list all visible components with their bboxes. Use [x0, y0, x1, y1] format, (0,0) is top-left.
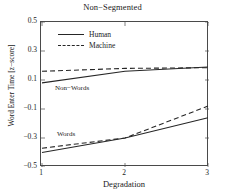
- x-tick-label: 1: [31, 169, 51, 177]
- x-tick-label: 2: [114, 169, 134, 177]
- legend-label: Human: [89, 29, 111, 40]
- legend-item-human: Human: [58, 29, 148, 40]
- plot-area: Human Machine Non−Words Words: [40, 21, 208, 166]
- legend-line-solid-icon: [58, 34, 84, 35]
- chart-legend: Human Machine: [58, 29, 148, 51]
- y-axis-label: Word Enter Time [z−score]: [7, 21, 16, 151]
- legend-line-dashed-icon: [58, 45, 84, 46]
- x-axis-label: Degradation: [40, 179, 208, 189]
- annotation-non-words: Non−Words: [55, 84, 89, 92]
- chart-figure: Non−Segmented 0.5 0.3 0.1 −0.1 −0.3 −0.5…: [0, 0, 225, 194]
- x-tick-label: 3: [197, 169, 217, 177]
- legend-item-machine: Machine: [58, 40, 148, 51]
- annotation-words: Words: [57, 130, 75, 138]
- legend-label: Machine: [89, 40, 115, 51]
- series-line-nonwords-human: [42, 67, 208, 83]
- series-line-words-machine: [42, 106, 208, 148]
